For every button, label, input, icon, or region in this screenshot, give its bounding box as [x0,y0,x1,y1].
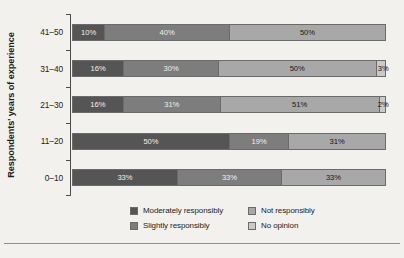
bar-segment-value: 33% [117,173,132,182]
bar-segment-value: 2% [378,100,389,109]
bar-segment-value: 31% [164,100,179,109]
bar-segment-value: 33% [222,173,237,182]
bar-segment: 40% [104,25,229,40]
bar-segment: 33% [73,170,177,185]
bar-segment: 10% [73,25,104,40]
legend-swatch [248,222,256,230]
bar-segment-value: 50% [290,64,305,73]
bar-segment: 31% [123,97,220,112]
bar-segment-value: 30% [164,64,179,73]
legend-swatch [248,207,256,215]
legend-label: Not responsibly [261,206,315,215]
bar-row: 0–1033%33%33% [70,160,388,196]
legend-swatch [130,207,138,215]
bar-segment: 33% [177,170,281,185]
stacked-bar: 16%30%50%3% [72,60,386,77]
bar-segment: 50% [218,61,376,76]
bar-segment-value: 33% [326,173,341,182]
bar-segment-value: 50% [300,28,315,37]
bar-segment-value: 10% [81,28,96,37]
stacked-bar: 16%31%51%2% [72,96,386,113]
bar-segment-value: 3% [378,64,389,73]
bar-segment: 16% [73,61,123,76]
bar-segment-value: 16% [90,100,105,109]
bar-segment-value: 16% [91,64,106,73]
category-label: 21–30 [40,100,63,110]
bar-segment-value: 19% [252,137,267,146]
bar-segment: 3% [376,61,385,76]
bar-segment: 50% [229,25,385,40]
legend-label: No opinion [261,221,298,230]
stacked-bar: 50%19%31% [72,133,386,150]
bar-row: 31–4016%30%50%3% [70,50,388,86]
bar-segment-value: 50% [143,137,158,146]
legend-swatch [130,222,138,230]
bar-segment: 33% [281,170,385,185]
category-label: 11–20 [41,136,63,146]
bar-segment-value: 40% [159,28,174,37]
bar-segment: 19% [229,134,288,149]
legend-item: Not responsibly [248,206,358,215]
y-axis-title: Respondents' years of experience [4,5,18,205]
chart-figure: Respondents' years of experience 41–5010… [0,0,404,258]
legend-label: Slightly responsibly [143,221,209,230]
bar-segment: 2% [379,97,385,112]
plot-area: 41–5010%40%50%31–4016%30%50%3%21–3016%31… [70,14,388,196]
bar-segment: 51% [220,97,379,112]
stacked-bar: 33%33%33% [72,169,386,186]
legend-item: No opinion [248,221,358,230]
legend-label: Moderately responsibly [143,206,223,215]
category-label: 0–10 [45,173,63,183]
bar-row: 21–3016%31%51%2% [70,87,388,123]
bar-segment: 31% [288,134,385,149]
bar-segment-value: 31% [330,137,345,146]
bar-segment: 50% [73,134,229,149]
bar-segment: 16% [73,97,123,112]
footer-divider [4,243,400,244]
legend-item: Slightly responsibly [130,221,248,230]
stacked-bar: 10%40%50% [72,24,386,41]
legend-item: Moderately responsibly [130,206,248,215]
bar-row: 41–5010%40%50% [70,14,388,50]
bar-row: 11–2050%19%31% [70,123,388,159]
category-label: 31–40 [40,64,63,74]
bar-segment: 30% [123,61,218,76]
category-label: 41–50 [40,27,63,37]
chart-legend: Moderately responsiblyNot responsiblySli… [130,203,380,233]
bar-segment-value: 51% [292,100,307,109]
